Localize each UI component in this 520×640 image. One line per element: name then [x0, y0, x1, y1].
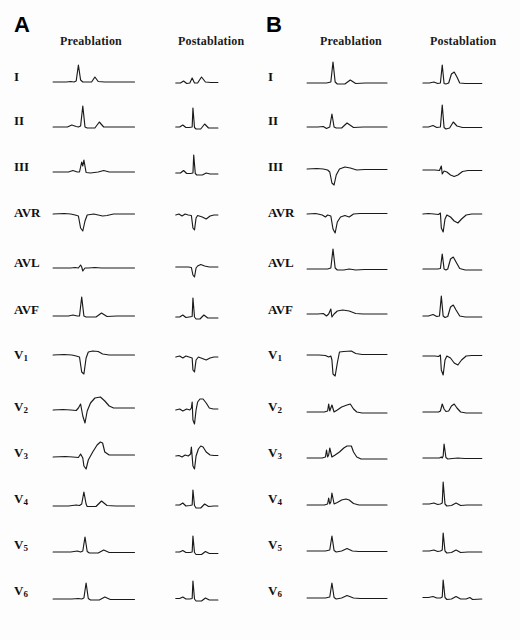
lead-label-v5: V5: [14, 538, 28, 551]
ecg-trace-a-post-v5: [175, 520, 253, 568]
lead-label-avl: AVL: [14, 256, 40, 269]
lead-label-avr: AVR: [14, 206, 41, 219]
lead-label-v6: V6: [14, 584, 28, 597]
ecg-trace-b-post-v1: [422, 330, 514, 378]
ecg-trace-a-post-i: [175, 52, 253, 100]
lead-label-i: I: [268, 70, 273, 83]
ecg-trace-a-pre-v5: [52, 520, 162, 568]
lead-label-v1: V1: [268, 348, 282, 361]
lead-label-ii: II: [268, 114, 278, 127]
ecg-trace-b-post-v6: [422, 566, 514, 614]
ecg-trace-b-pre-avr: [306, 188, 414, 236]
lead-label-v1: V1: [14, 348, 28, 361]
ecg-trace-a-pre-v1: [52, 330, 162, 378]
ecg-trace-a-pre-v4: [52, 474, 162, 522]
lead-row-v4: V4: [258, 474, 520, 522]
lead-label-avf: AVF: [14, 303, 39, 316]
panel-a-postablation-header: Postablation: [178, 34, 244, 49]
lead-row-v6: V6: [258, 566, 520, 614]
lead-row-v2: V2: [0, 382, 258, 430]
panel-b: B Preablation Postablation IIIIIIAVRAVLA…: [258, 0, 520, 640]
lead-row-v1: V1: [0, 330, 258, 378]
lead-label-avl: AVL: [268, 256, 294, 269]
ecg-trace-b-pre-ii: [306, 96, 414, 144]
ecg-trace-a-pre-avl: [52, 238, 162, 286]
lead-label-v2: V2: [268, 400, 282, 413]
lead-row-v5: V5: [258, 520, 520, 568]
ecg-trace-b-pre-i: [306, 52, 414, 100]
ecg-trace-b-post-ii: [422, 96, 514, 144]
lead-row-ii: II: [258, 96, 520, 144]
lead-label-v6: V6: [268, 584, 282, 597]
ecg-trace-b-pre-v3: [306, 428, 414, 476]
ecg-trace-b-post-v5: [422, 520, 514, 568]
lead-row-iii: III: [0, 142, 258, 190]
lead-row-v1: V1: [258, 330, 520, 378]
ecg-trace-b-post-v2: [422, 382, 514, 430]
ecg-trace-b-post-avf: [422, 285, 514, 333]
ecg-trace-b-post-iii: [422, 142, 514, 190]
ecg-trace-a-pre-v3: [52, 428, 162, 476]
ecg-trace-b-pre-v6: [306, 566, 414, 614]
ecg-trace-a-post-v3: [175, 428, 253, 476]
ecg-trace-a-pre-ii: [52, 96, 162, 144]
ecg-trace-b-post-avl: [422, 238, 514, 286]
ecg-trace-a-post-v4: [175, 474, 253, 522]
ecg-trace-b-post-v4: [422, 474, 514, 522]
lead-row-ii: II: [0, 96, 258, 144]
ecg-trace-a-pre-v2: [52, 382, 162, 430]
ecg-trace-a-post-ii: [175, 96, 253, 144]
ecg-trace-b-pre-avf: [306, 285, 414, 333]
ecg-figure: A Preablation Postablation IIIIIIAVRAVLA…: [0, 0, 520, 640]
lead-row-v2: V2: [258, 382, 520, 430]
ecg-trace-a-post-v2: [175, 382, 253, 430]
lead-row-v3: V3: [258, 428, 520, 476]
lead-row-avl: AVL: [0, 238, 258, 286]
ecg-trace-a-post-avr: [175, 188, 253, 236]
lead-label-i: I: [14, 70, 19, 83]
panel-a: A Preablation Postablation IIIIIIAVRAVLA…: [0, 0, 258, 640]
ecg-trace-a-post-v6: [175, 566, 253, 614]
ecg-trace-a-post-avl: [175, 238, 253, 286]
ecg-trace-b-pre-v4: [306, 474, 414, 522]
lead-label-ii: II: [14, 114, 24, 127]
lead-label-v5: V5: [268, 538, 282, 551]
lead-label-v2: V2: [14, 400, 28, 413]
lead-row-avf: AVF: [258, 285, 520, 333]
lead-row-v4: V4: [0, 474, 258, 522]
lead-label-avr: AVR: [268, 206, 295, 219]
ecg-trace-a-post-v1: [175, 330, 253, 378]
ecg-trace-a-pre-iii: [52, 142, 162, 190]
ecg-trace-b-pre-iii: [306, 142, 414, 190]
lead-row-iii: III: [258, 142, 520, 190]
ecg-trace-a-pre-avr: [52, 188, 162, 236]
lead-label-avf: AVF: [268, 303, 293, 316]
ecg-trace-a-post-avf: [175, 285, 253, 333]
ecg-trace-a-pre-v6: [52, 566, 162, 614]
ecg-trace-b-post-v3: [422, 428, 514, 476]
ecg-trace-b-pre-v1: [306, 330, 414, 378]
panel-a-preablation-header: Preablation: [60, 34, 122, 49]
ecg-trace-b-pre-v2: [306, 382, 414, 430]
lead-row-v3: V3: [0, 428, 258, 476]
ecg-trace-a-pre-avf: [52, 285, 162, 333]
panel-a-letter: A: [14, 14, 30, 36]
lead-row-avr: AVR: [0, 188, 258, 236]
lead-label-v4: V4: [14, 492, 28, 505]
panel-b-letter: B: [266, 14, 282, 36]
lead-row-v6: V6: [0, 566, 258, 614]
ecg-trace-b-post-i: [422, 52, 514, 100]
ecg-trace-b-pre-avl: [306, 238, 414, 286]
lead-label-v3: V3: [14, 446, 28, 459]
lead-label-iii: III: [14, 160, 29, 173]
panel-b-preablation-header: Preablation: [320, 34, 382, 49]
lead-row-avl: AVL: [258, 238, 520, 286]
lead-label-iii: III: [268, 160, 283, 173]
ecg-trace-b-post-avr: [422, 188, 514, 236]
lead-row-i: I: [258, 52, 520, 100]
lead-label-v3: V3: [268, 446, 282, 459]
lead-row-avf: AVF: [0, 285, 258, 333]
panel-b-postablation-header: Postablation: [430, 34, 496, 49]
lead-row-v5: V5: [0, 520, 258, 568]
ecg-trace-a-pre-i: [52, 52, 162, 100]
